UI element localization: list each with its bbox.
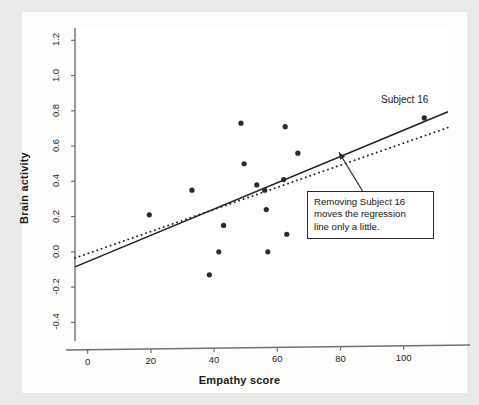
- data-point: [147, 212, 152, 217]
- x-tick-label: 80: [327, 353, 355, 364]
- data-point: [238, 121, 243, 126]
- data-point: [216, 249, 221, 254]
- callout-line-2: moves the regression: [314, 208, 428, 220]
- data-point: [422, 115, 427, 120]
- x-axis-title: Empathy score: [0, 374, 479, 386]
- y-tick-label: 1.0: [50, 62, 61, 88]
- x-tick-label: 40: [200, 354, 228, 365]
- plot-area-background: [75, 28, 448, 340]
- subject-16-label: Subject 16: [381, 94, 428, 105]
- x-tick-label: 100: [390, 352, 418, 363]
- data-point: [265, 249, 270, 254]
- callout-annotation-box: Removing Subject 16 moves the regression…: [307, 191, 434, 239]
- y-tick-label: 1.2: [50, 27, 61, 53]
- y-tick-label: 0.4: [50, 168, 61, 194]
- data-point: [281, 177, 286, 182]
- data-point: [221, 223, 226, 228]
- y-tick-label: -0.4: [50, 309, 61, 335]
- x-tick-label: 20: [137, 355, 165, 366]
- data-point: [242, 161, 247, 166]
- y-tick-label: 0.6: [50, 133, 61, 159]
- data-point: [189, 188, 194, 193]
- y-axis-title: Brain activity: [18, 128, 30, 248]
- x-tick-label: 0: [74, 356, 102, 367]
- data-point: [283, 124, 288, 129]
- data-point: [207, 272, 212, 277]
- data-point: [295, 151, 300, 156]
- y-tick-label: 0.0: [50, 238, 61, 264]
- data-point: [262, 188, 267, 193]
- data-point: [284, 232, 289, 237]
- x-axis-line: [66, 345, 470, 350]
- figure-page: Empathy score Brain activity -0.4-0.20.0…: [0, 0, 479, 405]
- x-tick-label: 60: [263, 353, 291, 364]
- data-point: [254, 182, 259, 187]
- y-tick-label: 0.2: [50, 203, 61, 229]
- data-point: [264, 207, 269, 212]
- y-tick-label: 0.8: [50, 97, 61, 123]
- y-tick-label: -0.2: [50, 274, 61, 300]
- callout-line-3: line only a little.: [314, 221, 428, 233]
- callout-line-1: Removing Subject 16: [314, 196, 428, 208]
